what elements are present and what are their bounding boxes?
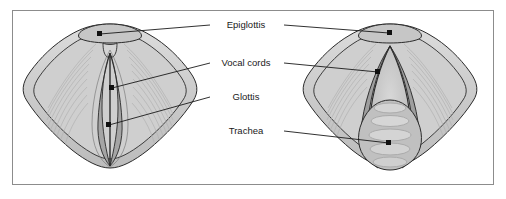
dot-epiglottis-right (387, 30, 392, 35)
label-vocal-cords: Vocal cords (221, 57, 270, 68)
right-view-open-glottis (303, 24, 477, 170)
label-group: Epiglottis Vocal cords Glottis Trachea (221, 19, 270, 136)
left-view-closed-glottis (23, 24, 197, 168)
dot-vocal-cords-right (375, 69, 380, 74)
dot-glottis-left (106, 122, 111, 127)
dot-trachea-right (386, 140, 391, 145)
figure-canvas: Epiglottis Vocal cords Glottis Trachea (0, 0, 506, 199)
label-glottis: Glottis (233, 91, 260, 102)
larynx-diagram: Epiglottis Vocal cords Glottis Trachea (0, 0, 506, 199)
dot-epiglottis-left (97, 31, 102, 36)
label-epiglottis: Epiglottis (227, 19, 266, 30)
dot-vocal-cords-left (109, 85, 114, 90)
label-trachea: Trachea (229, 125, 264, 136)
